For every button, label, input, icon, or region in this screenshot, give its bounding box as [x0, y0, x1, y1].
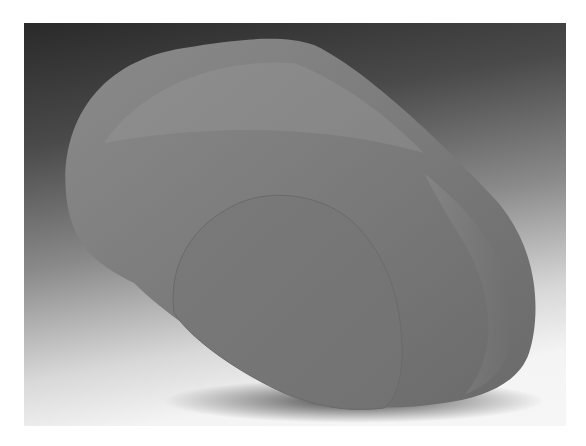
sculpture-photo: [24, 23, 566, 426]
sculpture-illustration: [24, 23, 566, 426]
